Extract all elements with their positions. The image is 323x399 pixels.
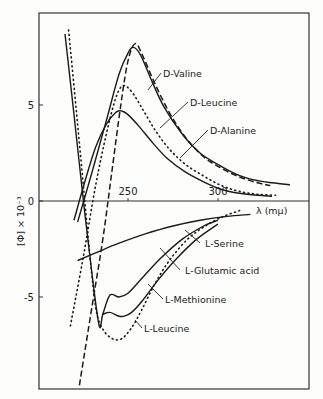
label-l-methionine: L-Methionine <box>165 294 226 305</box>
label-d-valine: D-Valine <box>163 68 202 79</box>
y-axis-ticks: 50-5 <box>24 100 43 303</box>
label-d-alanine: D-Alanine <box>210 125 256 136</box>
x-axis-label: λ (mμ) <box>256 205 287 216</box>
label-l-glutamic-acid: L-Glutamic acid <box>185 265 259 276</box>
label-l-leucine: L-Leucine <box>144 323 189 334</box>
label-d-leucine: D-Leucine <box>190 97 238 108</box>
y-tick-label: -5 <box>24 292 34 303</box>
x-axis-ticks: 250300 <box>118 186 227 201</box>
x-tick-label: 250 <box>118 186 137 197</box>
optical-rotatory-dispersion-chart: 50-5 250300 D-ValineD-LeucineD-AlanineL-… <box>0 0 323 399</box>
y-tick-label: 5 <box>28 100 34 111</box>
y-tick-label: 0 <box>28 196 34 207</box>
y-axis-label: [Φ] × 10⁻³ <box>15 196 26 246</box>
label-l-serine: L-Serine <box>205 238 244 249</box>
